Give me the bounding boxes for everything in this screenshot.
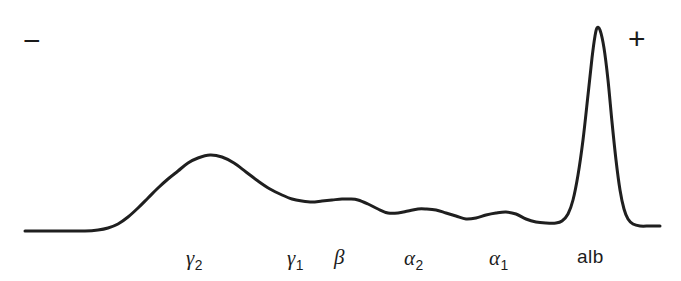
fraction-label-alpha-2: α2 [404,248,423,269]
fraction-label-beta: β [334,247,344,268]
fraction-label-gamma-1: γ1 [287,248,303,269]
fraction-label-alpha-1-subscript: 1 [501,257,509,273]
fraction-label-beta-glyph: β [334,245,344,269]
densitometry-trace-path [25,27,660,231]
polarity-positive-mark: + [628,24,646,54]
polarity-negative-mark: − [23,26,41,56]
fraction-label-alpha-2-glyph: α [404,246,415,270]
fraction-label-alpha-2-subscript: 2 [416,257,424,273]
fraction-label-gamma-1-glyph: γ [287,246,295,270]
electrophoresis-scan-figure: − + γ2γ1βα2α1alb [0,0,681,281]
fraction-label-alpha-1: α1 [489,248,508,269]
fraction-label-albumin: alb [577,247,604,266]
fraction-label-gamma-2: γ2 [186,248,202,269]
fraction-label-alpha-1-glyph: α [489,246,500,270]
fraction-label-gamma-1-subscript: 1 [296,257,304,273]
fraction-label-gamma-2-subscript: 2 [195,257,203,273]
fraction-label-gamma-2-glyph: γ [186,246,194,270]
densitometry-trace-svg [0,0,681,281]
